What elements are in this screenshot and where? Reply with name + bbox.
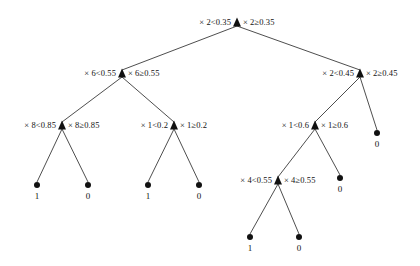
split-node-triangle-icon xyxy=(233,18,241,27)
leaf-node-dot-icon xyxy=(85,182,91,188)
leaf-node-dot-icon xyxy=(145,182,151,188)
decision-tree-figure: × 2<0.35× 2≥0.35× 6<0.55× 6≥0.55× 2<0.45… xyxy=(0,0,420,266)
split-label-right: × 6≥0.55 xyxy=(128,68,160,78)
split-label-left: × 6<0.55 xyxy=(84,68,116,78)
tree-edge xyxy=(237,26,360,70)
leaf-class-label: 0 xyxy=(375,139,380,149)
leaf-node-dot-icon xyxy=(247,234,253,240)
leaf-class-label: 1 xyxy=(248,243,253,253)
leaf-class-label: 0 xyxy=(86,191,91,201)
split-label-left: × 2<0.35 xyxy=(199,17,231,27)
split-label-right: × 2≥0.35 xyxy=(243,17,275,27)
split-label-right: × 1≥0.6 xyxy=(321,120,348,130)
tree-edge xyxy=(315,129,340,175)
leaf-class-label: 0 xyxy=(338,184,343,194)
split-label-left: × 1<0.6 xyxy=(282,120,309,130)
tree-edge xyxy=(62,77,122,122)
split-node-triangle-icon xyxy=(356,69,364,78)
leaf-class-label: 1 xyxy=(146,191,151,201)
tree-edge xyxy=(37,129,62,182)
split-label-left: × 1<0.2 xyxy=(141,120,168,130)
tree-edge xyxy=(278,129,315,177)
tree-edge xyxy=(278,184,299,234)
leaf-node-dot-icon xyxy=(337,175,343,181)
leaf-node-dot-icon xyxy=(196,182,202,188)
split-label-right: × 1≥0.2 xyxy=(180,120,207,130)
split-node-triangle-icon xyxy=(170,121,178,130)
split-label-left: × 8<0.85 xyxy=(24,120,56,130)
tree-edge xyxy=(174,129,199,182)
split-label-right: × 8≥0.85 xyxy=(68,120,100,130)
tree-edge xyxy=(148,129,174,182)
split-label-right: × 4≥0.55 xyxy=(284,175,316,185)
split-node-triangle-icon xyxy=(118,69,126,78)
leaf-node-dot-icon xyxy=(296,234,302,240)
leaf-class-label: 1 xyxy=(35,191,40,201)
leaf-class-label: 0 xyxy=(197,191,202,201)
leaf-node-dot-icon xyxy=(374,130,380,136)
split-label-right: × 2≥0.45 xyxy=(366,68,398,78)
tree-edge xyxy=(122,26,237,70)
split-label-left: × 2<0.45 xyxy=(322,68,354,78)
tree-edge xyxy=(250,184,278,234)
tree-edge xyxy=(360,77,377,130)
leaf-class-label: 0 xyxy=(297,243,302,253)
tree-edge xyxy=(315,77,360,122)
split-node-triangle-icon xyxy=(58,121,66,130)
split-node-triangle-icon xyxy=(274,176,282,185)
split-label-left: × 4<0.55 xyxy=(240,175,272,185)
tree-edges-layer xyxy=(0,0,420,266)
leaf-node-dot-icon xyxy=(34,182,40,188)
tree-edge xyxy=(122,77,174,122)
split-node-triangle-icon xyxy=(311,121,319,130)
tree-edge xyxy=(62,129,88,182)
